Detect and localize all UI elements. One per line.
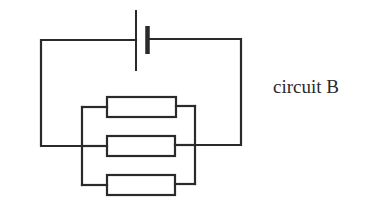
circuit-caption: circuit B	[273, 77, 339, 96]
resistor-icon-middle	[107, 136, 175, 156]
outer-wires	[41, 39, 241, 146]
resistor-icon-bottom	[107, 175, 175, 195]
wire-left-loop	[41, 40, 136, 146]
circuit-diagram	[0, 0, 383, 211]
resistor-icon-top	[107, 97, 176, 117]
battery-icon	[136, 11, 148, 70]
